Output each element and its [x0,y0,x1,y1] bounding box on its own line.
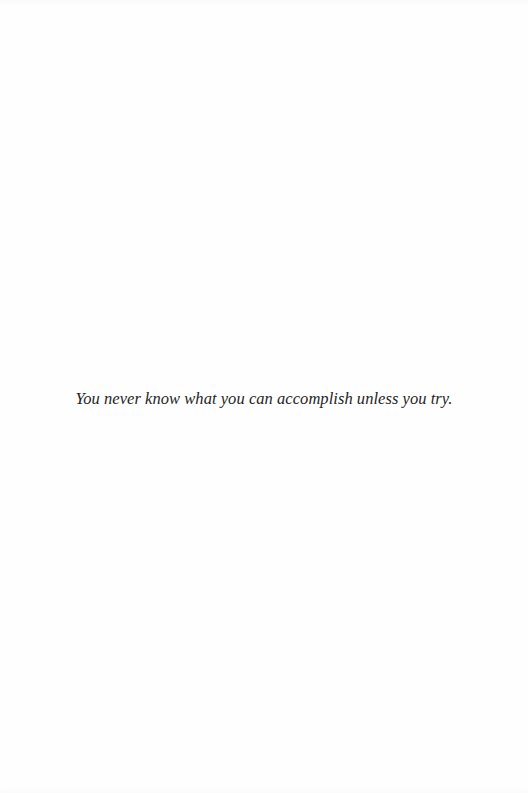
book-page: You never know what you can accomplish u… [0,0,528,793]
epigraph-quote: You never know what you can accomplish u… [0,388,528,410]
